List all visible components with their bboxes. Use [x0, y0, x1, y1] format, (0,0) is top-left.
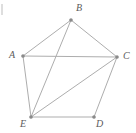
graph-edge-c-d [94, 57, 117, 117]
graph-edge-e-a [23, 56, 31, 117]
vertex-label-c: C [123, 51, 130, 61]
graph-vertex-a [21, 54, 24, 57]
graph-diagram-figure: ABCDE [0, 0, 136, 133]
graph-vertex-b [69, 18, 72, 21]
graph-vertex-e [29, 115, 32, 118]
graph-canvas [0, 0, 136, 133]
vertex-label-b: B [76, 3, 82, 13]
graph-edge-a-c [23, 56, 117, 57]
edges-group [23, 20, 117, 117]
vertices-group [21, 18, 118, 118]
graph-vertex-c [115, 55, 118, 58]
graph-edge-b-c [71, 20, 117, 57]
vertex-label-e: E [20, 119, 26, 129]
vertex-label-a: A [9, 50, 15, 60]
vertex-label-d: D [96, 119, 103, 129]
